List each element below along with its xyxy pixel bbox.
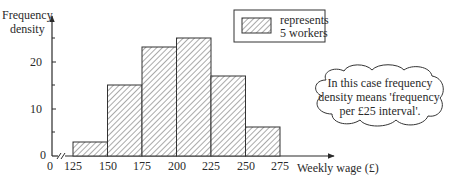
- y-axis-label-line1: Frequency: [2, 8, 53, 22]
- x-tick-125: 125: [64, 159, 82, 173]
- legend-swatch: [242, 18, 271, 33]
- legend-line2: 5 workers: [280, 26, 328, 40]
- histogram-bars: [73, 38, 280, 156]
- x-tick-200: 200: [168, 159, 186, 173]
- bar-175-200: [142, 47, 177, 156]
- cloud-line2: density means 'frequency: [318, 90, 439, 104]
- bar-200-225: [177, 38, 212, 156]
- x-tick-labels: 0 125 150 175 200 225 250 275: [47, 159, 289, 173]
- y-tick-0: 0: [40, 148, 46, 162]
- bar-225-250: [211, 76, 246, 156]
- y-tick-20: 20: [30, 55, 42, 69]
- x-tick-225: 225: [202, 159, 220, 173]
- histogram-chart: Frequency density 0 10 20 0 125 150 175 …: [0, 0, 449, 179]
- x-tick-250: 250: [237, 159, 255, 173]
- x-origin-label: 0: [47, 159, 53, 173]
- cloud-line3: per £25 interval'.: [339, 104, 420, 118]
- x-tick-275: 275: [271, 159, 289, 173]
- x-tick-175: 175: [133, 159, 151, 173]
- bar-150-175: [108, 85, 143, 156]
- y-axis-label-line2: density: [10, 22, 45, 36]
- cloud-annotation: In this case frequency density means 'fr…: [316, 65, 444, 126]
- bar-250-275: [246, 127, 281, 156]
- legend-line1: represents: [280, 13, 329, 27]
- legend: represents 5 workers: [234, 10, 329, 42]
- x-tick-150: 150: [99, 159, 117, 173]
- x-axis-label: Weekly wage (£): [297, 161, 379, 175]
- y-tick-10: 10: [30, 102, 42, 116]
- cloud-line1: In this case frequency: [328, 76, 433, 90]
- bar-125-150: [73, 142, 108, 156]
- y-tick-labels: 0 10 20: [30, 55, 46, 162]
